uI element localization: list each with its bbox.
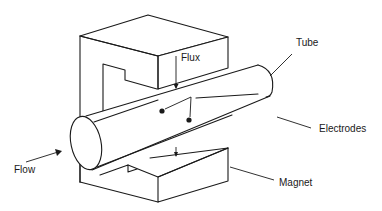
- flow-arrow: [26, 149, 62, 162]
- magnet-leader-line: [230, 167, 274, 180]
- upper-pole-block: [80, 15, 228, 89]
- tube-leader-line: [270, 54, 292, 76]
- tube-label: Tube: [296, 37, 319, 48]
- electrode-2: [186, 117, 191, 122]
- electrodes-leader-line: [277, 117, 311, 128]
- flowmeter-diagram: Flux Tube Electrodes Flow Magnet: [0, 0, 382, 211]
- flux-arrow-bottom: [174, 147, 178, 157]
- magnet-label: Magnet: [279, 177, 313, 188]
- flux-label: Flux: [181, 52, 200, 63]
- electrodes-label: Electrodes: [319, 123, 366, 134]
- electrode-1: [159, 108, 164, 113]
- flow-label: Flow: [14, 164, 36, 175]
